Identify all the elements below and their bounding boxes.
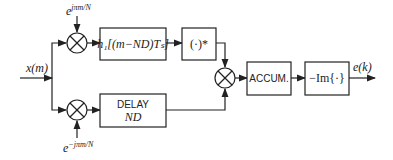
svg-text:ACCUM.: ACCUM. bbox=[249, 73, 288, 84]
center-mixer bbox=[215, 68, 235, 88]
svg-text:DELAY: DELAY bbox=[117, 99, 149, 110]
bottom-mixer-label: e−jπm/N bbox=[63, 140, 94, 155]
imag-part-block: −Im{·} bbox=[305, 62, 349, 95]
svg-text:h₁[(m−ND)Tₛ]: h₁[(m−ND)Tₛ] bbox=[97, 37, 169, 51]
accumulator-block: ACCUM. bbox=[247, 62, 291, 95]
conjugate-block: (·)* bbox=[182, 28, 216, 60]
svg-text:ND: ND bbox=[124, 110, 142, 124]
input-label: x(m) bbox=[25, 61, 48, 75]
block-diagram: x(m) ejπm/N h₁[(m−ND)Tₛ] (·)* e−jπm/N bbox=[0, 0, 393, 160]
svg-text:(·)*: (·)* bbox=[190, 37, 208, 51]
top-mixer-label: ejπm/N bbox=[66, 3, 92, 18]
bottom-mixer: e−jπm/N bbox=[63, 100, 94, 155]
top-mixer: ejπm/N bbox=[66, 3, 92, 53]
filter-block: h₁[(m−ND)Tₛ] bbox=[97, 28, 169, 60]
svg-text:−Im{·}: −Im{·} bbox=[309, 71, 345, 85]
input-signal: x(m) bbox=[20, 61, 52, 78]
delay-block: DELAY ND bbox=[100, 94, 166, 127]
output-label: e(k) bbox=[353, 60, 372, 74]
